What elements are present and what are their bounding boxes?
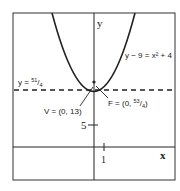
parabola-diagram: y x 5 1 y − 9 = x² + 4 y = 51/4 V = (0, … xyxy=(0,0,180,191)
y-axis-label: y xyxy=(97,17,103,29)
focus-label: F = (0, 53/4) xyxy=(108,98,148,109)
directrix-label: y = 51/4 xyxy=(18,77,43,88)
y-tick-label: 5 xyxy=(81,119,87,131)
x-tick-label: 1 xyxy=(101,154,106,165)
vertex-label: V = (0, 13) xyxy=(44,107,82,116)
x-axis-label: x xyxy=(160,149,166,161)
equation-label: y − 9 = x² + 4 xyxy=(125,51,172,60)
focus-point xyxy=(92,80,95,83)
